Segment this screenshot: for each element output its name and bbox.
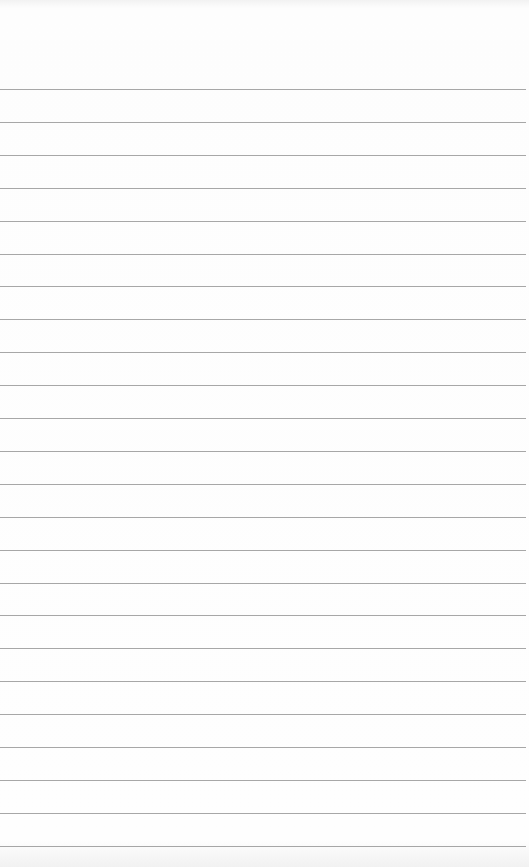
ruled-line <box>0 418 526 419</box>
ruled-line <box>0 286 526 287</box>
ruled-line <box>0 155 526 156</box>
ruled-line <box>0 221 526 222</box>
ruled-line <box>0 583 526 584</box>
ruled-line <box>0 385 526 386</box>
ruled-line <box>0 747 526 748</box>
ruled-line <box>0 188 526 189</box>
ruled-line <box>0 846 526 847</box>
ruled-line <box>0 352 526 353</box>
ruled-line <box>0 484 526 485</box>
ruled-line <box>0 615 526 616</box>
ruled-line <box>0 550 526 551</box>
ruled-line <box>0 681 526 682</box>
ruled-line <box>0 813 526 814</box>
ruled-line <box>0 254 526 255</box>
ruled-line <box>0 122 526 123</box>
ruled-line <box>0 451 526 452</box>
ruled-line <box>0 517 526 518</box>
ruled-line <box>0 648 526 649</box>
ruled-line <box>0 319 526 320</box>
ruled-line <box>0 89 526 90</box>
ruled-line <box>0 780 526 781</box>
ruled-line <box>0 714 526 715</box>
lined-paper <box>0 0 529 867</box>
